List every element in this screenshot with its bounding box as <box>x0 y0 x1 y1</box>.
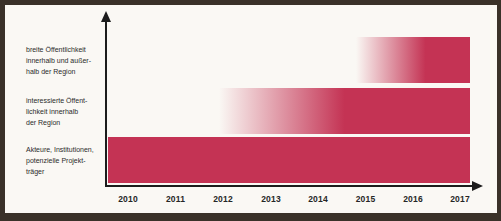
y-axis-arrowhead-icon <box>101 11 111 22</box>
bar-interessierte-oeffentlichkeit <box>219 88 470 134</box>
x-tick-2012: 2012 <box>213 194 233 204</box>
x-tick-2010: 2010 <box>118 194 138 204</box>
x-tick-2014: 2014 <box>308 194 328 204</box>
y-axis-line <box>105 13 107 187</box>
x-tick-2017: 2017 <box>450 194 470 204</box>
timeline-chart-figure: breite Öffentlichkeit innerhalb und auße… <box>0 0 501 221</box>
x-tick-2016: 2016 <box>403 194 423 204</box>
x-tick-2011: 2011 <box>166 194 185 204</box>
category-label-akteure-institutionen: Akteure, Institutionen, potenzielle Proj… <box>26 144 104 177</box>
x-tick-2015: 2015 <box>356 194 376 204</box>
category-label-breite-oeffentlichkeit: breite Öffentlichkeit innerhalb und auße… <box>26 44 104 77</box>
x-axis-arrowhead-icon <box>472 181 483 191</box>
category-label-interessierte-oeffentlichkeit: interessierte Öffent- lichkeit innerhalb… <box>26 95 104 128</box>
bar-akteure-institutionen <box>108 137 470 183</box>
x-axis-line <box>106 185 474 187</box>
x-tick-2013: 2013 <box>261 194 281 204</box>
bar-breite-oeffentlichkeit <box>356 37 470 83</box>
